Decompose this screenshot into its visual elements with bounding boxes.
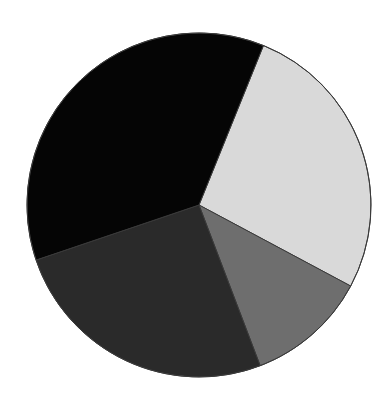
pie-chart xyxy=(0,0,391,405)
